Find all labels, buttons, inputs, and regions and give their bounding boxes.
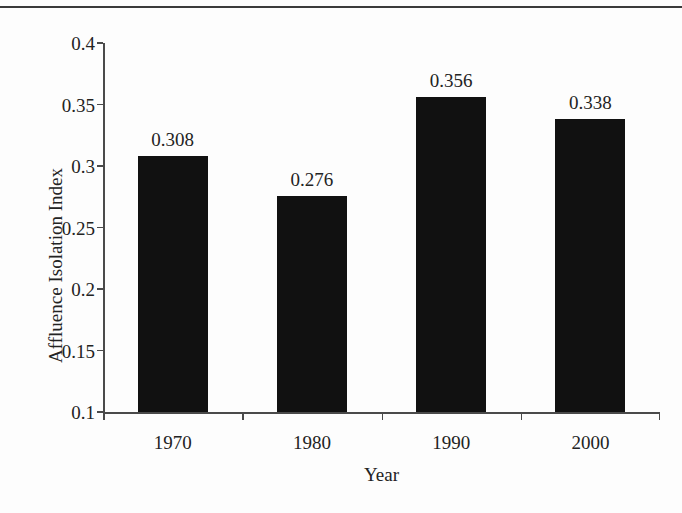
y-axis-title-wrapper: Affluence Isolation Index bbox=[35, 43, 36, 412]
y-axis-tick-label: 0.2 bbox=[71, 280, 95, 299]
x-axis-tick bbox=[103, 413, 105, 420]
x-axis-category-label: 1980 bbox=[262, 433, 362, 452]
x-axis-category-label: 1970 bbox=[123, 433, 223, 452]
bar-value-label: 0.356 bbox=[401, 71, 501, 90]
plot-area: 0.30819700.27619800.35619900.3382000 bbox=[103, 43, 660, 412]
x-axis-title: Year bbox=[103, 465, 660, 484]
y-axis-tick-label: 0.25 bbox=[62, 219, 95, 238]
y-axis-tick bbox=[97, 288, 103, 290]
y-axis-tick-label: 0.4 bbox=[71, 34, 95, 53]
bar bbox=[277, 196, 347, 412]
figure-canvas: 0.10.150.20.250.30.350.4 Affluence Isola… bbox=[0, 0, 682, 513]
y-axis-line bbox=[103, 43, 105, 412]
y-axis-title: Affluence Isolation Index bbox=[46, 116, 65, 416]
y-axis-tick-label: 0.15 bbox=[62, 342, 95, 361]
x-axis-tick bbox=[659, 413, 661, 420]
y-axis-tick bbox=[97, 227, 103, 229]
x-axis-tick bbox=[382, 413, 384, 420]
x-axis-tick bbox=[242, 413, 244, 420]
y-axis-tick-label: 0.1 bbox=[71, 403, 95, 422]
x-axis-category-label: 2000 bbox=[540, 433, 640, 452]
bar-value-label: 0.308 bbox=[123, 130, 223, 149]
bar bbox=[555, 119, 625, 412]
y-axis-tick bbox=[97, 104, 103, 106]
y-axis-tick-label: 0.3 bbox=[71, 157, 95, 176]
bar bbox=[416, 97, 486, 412]
y-axis-tick bbox=[97, 42, 103, 44]
y-axis-tick-label: 0.35 bbox=[62, 96, 95, 115]
page-separator-rule bbox=[0, 6, 682, 8]
bar bbox=[138, 156, 208, 412]
x-axis-category-label: 1990 bbox=[401, 433, 501, 452]
x-axis-tick bbox=[521, 413, 523, 420]
bar-value-label: 0.338 bbox=[540, 93, 640, 112]
y-axis-tick bbox=[97, 350, 103, 352]
bar-value-label: 0.276 bbox=[262, 170, 362, 189]
y-axis-tick bbox=[97, 165, 103, 167]
